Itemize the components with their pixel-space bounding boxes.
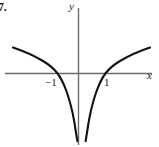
y-axis-label: y: [69, 1, 74, 12]
x-axis-label: x: [147, 70, 152, 81]
x-tick-label-positive-one: 1: [104, 77, 110, 88]
problem-number: 7.: [0, 1, 7, 13]
graph-canvas: [0, 0, 159, 147]
curve-left-branch: [13, 48, 77, 142]
x-tick-label-negative-one: −1: [45, 77, 57, 88]
math-figure: 7. y x −1 1: [0, 0, 159, 147]
curve-right-branch: [86, 48, 150, 142]
